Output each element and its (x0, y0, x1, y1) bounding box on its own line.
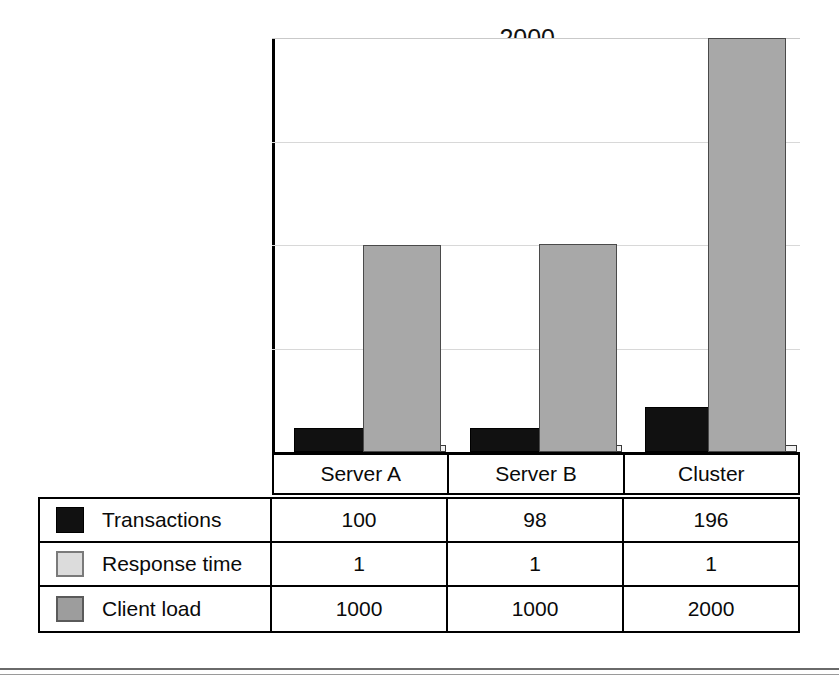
cell-client-load-server-b: 1000 (448, 587, 624, 631)
bar-server-a-client-load[interactable] (363, 245, 441, 452)
bar-server-b-client-load[interactable] (539, 244, 617, 452)
cell-client-load-cluster: 2000 (624, 587, 798, 631)
cell-client-load-server-a: 1000 (272, 587, 448, 631)
category-strip: Server A Server B Cluster (272, 455, 800, 495)
bar-cluster-client-load[interactable] (708, 38, 786, 452)
page-divider-rule (0, 668, 839, 670)
legend-label-transactions: Transactions (102, 508, 221, 532)
page-divider-rule-secondary (0, 674, 839, 675)
legend-cell-transactions: Transactions (40, 499, 272, 541)
legend-label-response-time: Response time (102, 552, 242, 576)
cell-transactions-cluster: 196 (624, 499, 798, 541)
cell-transactions-server-a: 100 (272, 499, 448, 541)
data-table: Transactions 100 98 196 Response time 1 … (38, 497, 800, 633)
table-row: Client load 1000 1000 2000 (40, 587, 798, 631)
chart-figure: 2000 1500 1000 500 0 Server A Server B (0, 0, 839, 685)
bar-server-b-transactions[interactable] (470, 428, 546, 452)
table-row: Response time 1 1 1 (40, 543, 798, 587)
table-row: Transactions 100 98 196 (40, 499, 798, 543)
legend-cell-response-time: Response time (40, 543, 272, 585)
light-gray-square-swatch-icon (56, 551, 84, 577)
category-label-server-b: Server B (449, 455, 624, 493)
medium-gray-square-swatch-icon (56, 596, 84, 622)
legend-label-client-load: Client load (102, 597, 201, 621)
bars-layer (272, 38, 800, 455)
black-square-swatch-icon (56, 507, 84, 533)
category-label-cluster: Cluster (625, 455, 798, 493)
cell-response-time-server-a: 1 (272, 543, 448, 585)
bar-server-a-transactions[interactable] (294, 428, 370, 452)
category-label-server-a: Server A (274, 455, 449, 493)
plot-area (272, 38, 800, 455)
cell-response-time-server-b: 1 (448, 543, 624, 585)
cell-response-time-cluster: 1 (624, 543, 798, 585)
legend-cell-client-load: Client load (40, 587, 272, 631)
cell-transactions-server-b: 98 (448, 499, 624, 541)
